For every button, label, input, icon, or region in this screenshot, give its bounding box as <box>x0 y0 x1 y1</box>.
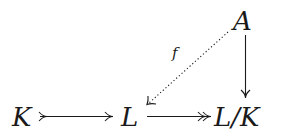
node-l: L <box>121 104 138 130</box>
arrow-l-to-lk <box>147 112 211 121</box>
arrow-a-to-lk <box>241 35 250 98</box>
arrow-k-to-l <box>39 112 113 121</box>
node-k: K <box>12 104 31 130</box>
node-a: A <box>233 8 252 34</box>
label-f: f <box>172 46 178 61</box>
arrow-a-to-l-dotted <box>147 32 228 105</box>
node-l-mod-k: L/K <box>214 104 259 130</box>
